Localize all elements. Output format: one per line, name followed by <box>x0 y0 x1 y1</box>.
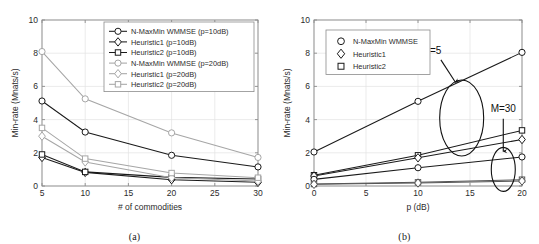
chart-b-legend: N-MaxMin WMMSEHeuristic1Heuristic2 <box>326 30 430 75</box>
legend-label: Heuristic2 (p=10dB) <box>131 48 197 57</box>
x-tick-label: 20 <box>517 188 527 198</box>
marker-diamond <box>39 132 46 140</box>
x-tick-label: 5 <box>40 188 45 198</box>
y-tick-label: 2 <box>33 148 38 158</box>
x-tick-label: 25 <box>210 188 220 198</box>
marker-circle <box>169 130 175 136</box>
legend-label: Heuristic1 (p=20dB) <box>131 70 197 79</box>
x-tick-label: 0 <box>312 188 317 198</box>
y-tick-label: 6 <box>305 81 310 91</box>
legend-label: Heuristic1 <box>353 50 386 59</box>
series-line <box>42 136 258 181</box>
series-5 <box>39 132 262 185</box>
marker-circle <box>415 165 421 171</box>
legend-label: N-MaxMin WMMSE (p=20dB) <box>131 59 229 68</box>
chart-a-y-axis-label: Min-rate (Mnats/s) <box>10 68 20 137</box>
chart-a-x-axis-label: # of commodities <box>118 202 182 212</box>
marker-circle <box>519 154 525 160</box>
y-tick-label: 2 <box>305 148 310 158</box>
marker-circle <box>115 60 121 66</box>
chart-b-annotations: M=5M=30 <box>422 45 517 191</box>
y-tick-label: 10 <box>301 15 311 25</box>
series-line <box>42 101 258 167</box>
figure-container: 510152025300246810 N-MaxMin WMMSE (p=10d… <box>0 0 539 244</box>
x-tick-label: 10 <box>80 188 90 198</box>
y-tick-label: 8 <box>33 48 38 58</box>
chart-b-x-axis-label: p (dB) <box>406 202 429 212</box>
marker-square <box>82 156 87 161</box>
marker-circle <box>415 98 421 104</box>
x-tick-label: 15 <box>124 188 134 198</box>
marker-square <box>338 63 344 69</box>
chart-panel-a: 510152025300246810 N-MaxMin WMMSE (p=10d… <box>0 0 269 244</box>
legend-label: Heuristic2 <box>353 62 386 71</box>
annotation-label-m30: M=30 <box>491 103 517 114</box>
marker-circle <box>255 154 261 160</box>
marker-square <box>39 125 44 130</box>
chart-panel-b: 051015200246810 M=5M=30 N-MaxMin WMMSEHe… <box>270 0 539 244</box>
marker-square <box>519 128 524 133</box>
marker-circle <box>519 49 525 55</box>
marker-circle <box>82 129 88 135</box>
marker-circle <box>311 149 317 155</box>
y-tick-label: 0 <box>305 181 310 191</box>
marker-square <box>115 82 120 87</box>
y-tick-label: 10 <box>29 15 39 25</box>
chart-a-svg: 510152025300246810 N-MaxMin WMMSE (p=10d… <box>0 0 269 244</box>
annotation-ellipse-m30 <box>491 147 515 191</box>
series-line <box>42 154 258 179</box>
chart-a-caption: (a) <box>0 231 269 242</box>
legend-label: Heuristic1 (p=10dB) <box>131 38 197 47</box>
marker-square <box>82 169 87 174</box>
marker-square <box>255 175 260 180</box>
x-tick-label: 30 <box>253 188 263 198</box>
y-tick-label: 6 <box>33 81 38 91</box>
marker-circle <box>338 38 345 45</box>
y-tick-label: 8 <box>305 48 310 58</box>
marker-circle <box>39 98 45 104</box>
y-tick-label: 0 <box>33 181 38 191</box>
chart-b-caption: (b) <box>270 231 539 242</box>
marker-circle <box>169 152 175 158</box>
chart-a-legend: N-MaxMin WMMSE (p=10dB)Heuristic1 (p=10d… <box>104 22 254 92</box>
marker-circle <box>39 48 45 54</box>
chart-b-svg: 051015200246810 M=5M=30 N-MaxMin WMMSEHe… <box>270 0 539 244</box>
legend-label: N-MaxMin WMMSE (p=10dB) <box>131 27 229 36</box>
series-3 <box>39 152 260 182</box>
x-tick-label: 10 <box>413 188 423 198</box>
marker-circle <box>82 96 88 102</box>
series-1 <box>39 98 261 170</box>
x-tick-label: 15 <box>465 188 475 198</box>
marker-diamond <box>519 135 526 143</box>
x-tick-label: 20 <box>167 188 177 198</box>
legend-label: N-MaxMin WMMSE <box>353 37 418 46</box>
chart-b-y-axis-label: Min-rate (Mnats/s) <box>282 68 292 137</box>
marker-circle <box>115 28 121 34</box>
legend-label: Heuristic2 (p=20dB) <box>131 80 197 89</box>
marker-circle <box>255 164 261 170</box>
x-tick-label: 5 <box>364 188 369 198</box>
annotation-arrow-m5 <box>441 60 456 82</box>
marker-square <box>169 170 174 175</box>
y-tick-label: 4 <box>305 115 310 125</box>
marker-square <box>39 152 44 157</box>
marker-square <box>115 50 120 55</box>
y-tick-label: 4 <box>33 115 38 125</box>
